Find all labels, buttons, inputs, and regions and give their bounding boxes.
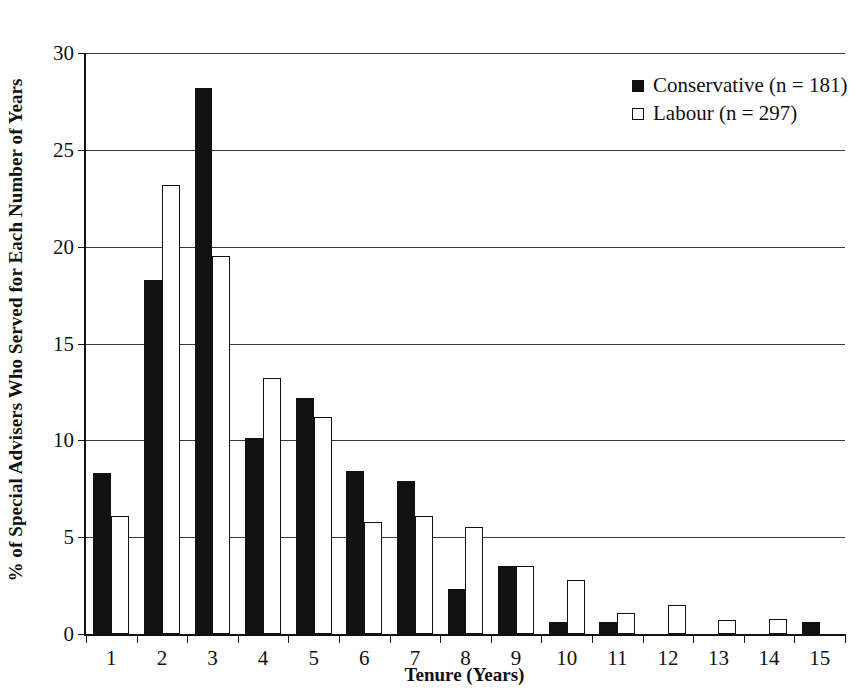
bar-group [390, 53, 441, 634]
bar-labour [769, 619, 787, 634]
bar-conservative [195, 88, 213, 634]
bar-conservative [448, 589, 466, 634]
bar-labour [162, 185, 180, 634]
x-tick-mark [238, 634, 239, 643]
bar-conservative [296, 398, 314, 634]
bar-conservative [549, 622, 567, 634]
x-tick-mark [339, 634, 340, 643]
y-tick-label: 10 [53, 428, 74, 453]
y-tick-label: 30 [53, 41, 74, 66]
bar-conservative [498, 566, 516, 634]
y-axis-title: % of Special Advisers Who Served for Eac… [0, 0, 32, 660]
bar-labour [364, 522, 382, 634]
y-tick-mark [78, 537, 86, 538]
bar-group [643, 53, 694, 634]
x-tick-mark [845, 634, 846, 643]
x-tick-mark [643, 634, 644, 643]
bar-labour [415, 516, 433, 634]
y-tick-label: 15 [53, 331, 74, 356]
bar-group [744, 53, 795, 634]
bar-labour [516, 566, 534, 634]
x-tick-mark [440, 634, 441, 643]
x-axis-title: Tenure (Years) [84, 664, 845, 686]
bar-labour [212, 256, 230, 634]
bar-conservative [93, 473, 111, 634]
y-tick-mark [78, 53, 86, 54]
x-tick-mark [794, 634, 795, 643]
bar-conservative [245, 438, 263, 634]
legend-label-labour: Labour (n = 297) [653, 100, 797, 128]
bar-conservative [397, 481, 415, 634]
x-tick-mark [86, 634, 87, 643]
bar-labour [567, 580, 585, 634]
bar-group [541, 53, 592, 634]
x-tick-mark [390, 634, 391, 643]
x-tick-mark [541, 634, 542, 643]
bar-group [137, 53, 188, 634]
bar-conservative [802, 622, 820, 634]
x-tick-mark [288, 634, 289, 643]
bar-group [491, 53, 542, 634]
bar-group [440, 53, 491, 634]
x-tick-mark [693, 634, 694, 643]
y-tick-mark [78, 344, 86, 345]
bar-group [339, 53, 390, 634]
x-tick-mark [491, 634, 492, 643]
chart-legend: Conservative (n = 181) Labour (n = 297) [632, 72, 847, 127]
chart-page: % of Special Advisers Who Served for Eac… [0, 0, 866, 697]
y-tick-label: 5 [64, 525, 75, 550]
bar-group [592, 53, 643, 634]
bar-labour [718, 620, 736, 634]
bar-group [693, 53, 744, 634]
bar-group [86, 53, 137, 634]
y-tick-label: 25 [53, 137, 74, 162]
bar-conservative [346, 471, 364, 634]
bar-group [288, 53, 339, 634]
filled-square-icon [632, 80, 644, 92]
y-tick-mark [78, 440, 86, 441]
y-tick-mark [78, 247, 86, 248]
bar-group [187, 53, 238, 634]
bar-group [794, 53, 845, 634]
y-tick-mark [78, 634, 86, 635]
bar-labour [465, 527, 483, 634]
x-tick-mark [137, 634, 138, 643]
x-tick-mark [744, 634, 745, 643]
legend-label-conservative: Conservative (n = 181) [653, 72, 847, 100]
y-tick-label: 20 [53, 234, 74, 259]
bar-conservative [144, 280, 162, 634]
plot-area: 051015202530123456789101112131415 [84, 53, 845, 636]
legend-item-labour: Labour (n = 297) [632, 100, 847, 128]
y-axis-title-text: % of Special Advisers Who Served for Eac… [5, 78, 27, 581]
bar-labour [617, 613, 635, 634]
x-tick-mark [187, 634, 188, 643]
bar-labour [314, 417, 332, 634]
y-tick-label: 0 [64, 622, 75, 647]
bar-labour [263, 378, 281, 634]
x-tick-mark [592, 634, 593, 643]
bar-group [238, 53, 289, 634]
bar-labour [668, 605, 686, 634]
bar-conservative [599, 622, 617, 634]
bar-labour [111, 516, 129, 634]
y-tick-mark [78, 150, 86, 151]
legend-item-conservative: Conservative (n = 181) [632, 72, 847, 100]
hollow-square-icon [632, 108, 644, 120]
